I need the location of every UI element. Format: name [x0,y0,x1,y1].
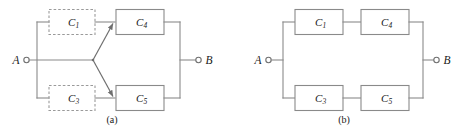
panel-a-block-c4-subscript: 4 [144,21,148,30]
panel-b-block-c5-subscript: 5 [389,97,393,106]
panel-a-block-c3[interactable]: C 3 [49,86,95,111]
panel-a-arrow-junction-to-c5 [93,60,113,97]
panel-b-block-c1-subscript: 1 [323,21,327,30]
panel-a-output-terminal-marker [196,57,201,62]
panel-b-output-label: B [443,54,450,66]
panel-b-block-c4-subscript: 4 [389,21,393,30]
panel-a-block-c3-subscript: 3 [75,97,80,106]
panel-b-block-c5[interactable]: C 5 [361,86,409,111]
panel-a-output-label: B [205,54,212,66]
panel-a-terminal-output: B [180,54,213,66]
panel-a-block-c5-subscript: 5 [144,97,148,106]
panel-b-block-c3-subscript: 3 [322,97,327,106]
panel-b: A C 1 C 4 C [253,10,450,127]
figure-container: A C 1 C 3 [0,0,458,128]
panel-a-caption: (a) [106,114,117,126]
panel-b-output-terminal-marker [434,57,439,62]
panel-b-block-c1[interactable]: C 1 [295,10,343,35]
panel-a-block-c1-subscript: 1 [76,21,80,30]
panel-b-block-c3[interactable]: C 3 [295,86,343,111]
panel-a-input-label: A [11,54,20,66]
panel-a-block-c1[interactable]: C 1 [49,10,95,35]
panel-b-block-c4[interactable]: C 4 [361,10,409,35]
panel-a-block-c5[interactable]: C 5 [116,86,164,111]
panel-a-terminal-input: A [11,54,93,66]
panel-a-arrow-junction-to-c4 [93,24,113,61]
panel-b-input-label: A [253,54,262,66]
panel-a: A C 1 C 3 [11,10,212,127]
panel-b-input-terminal-marker [266,57,271,62]
diagram-canvas: A C 1 C 3 [0,0,458,128]
panel-a-block-c4[interactable]: C 4 [116,10,164,35]
panel-b-terminal-output: B [423,54,451,66]
panel-b-terminal-input: A [253,54,283,66]
panel-b-caption: (b) [338,114,350,126]
panel-a-input-terminal-marker [24,57,29,62]
